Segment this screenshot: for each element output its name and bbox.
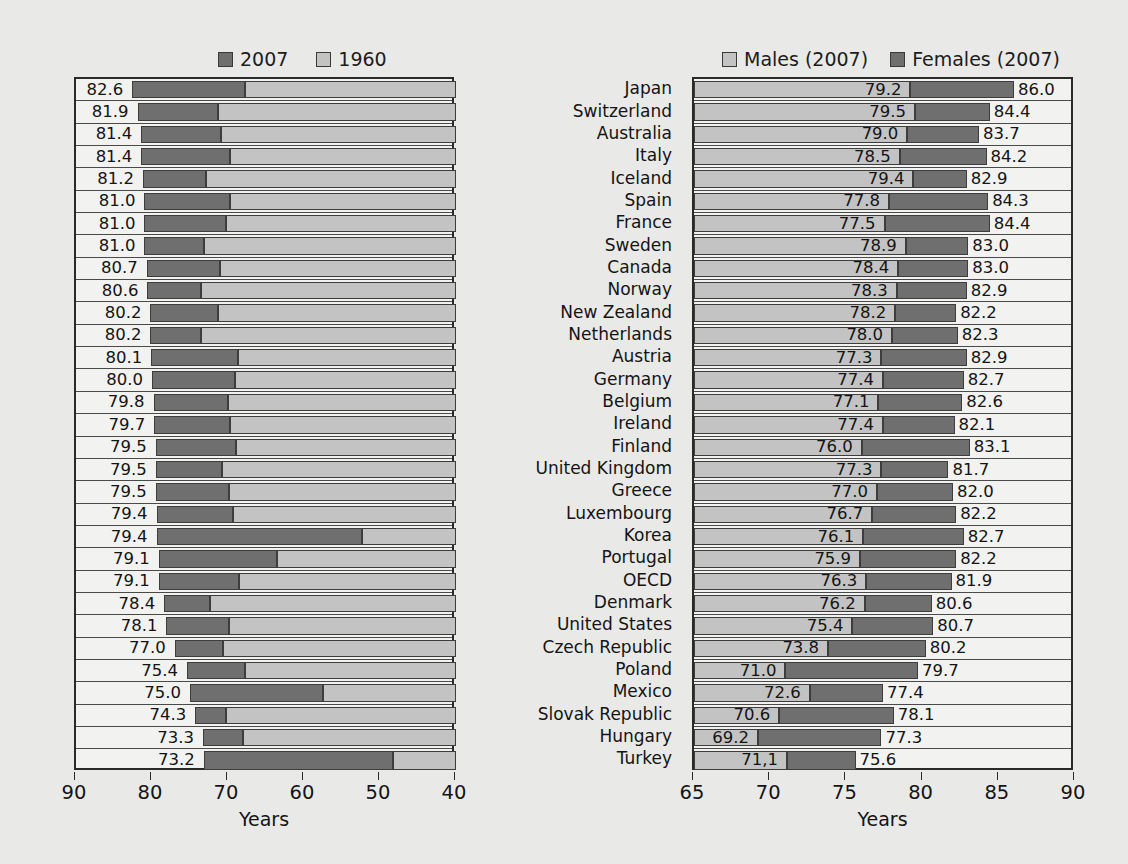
country-label: Poland <box>468 658 680 680</box>
bar-row: 78.1 <box>76 615 452 637</box>
bar-segment-females <box>866 573 951 590</box>
bar-value-label-2007: 81.0 <box>99 238 136 255</box>
bar-value-label-females: 82.2 <box>960 305 997 322</box>
bar-segment-females <box>863 528 964 545</box>
bar-segment-2007 <box>141 126 221 143</box>
axis-tick <box>692 772 693 780</box>
bar-value-label-females: 82.3 <box>962 327 999 344</box>
bar-segment-2007 <box>166 617 228 634</box>
bar-segment-2007 <box>152 371 235 388</box>
bar-value-label-males: 78.5 <box>854 148 891 165</box>
bar-row: 76.280.6 <box>694 593 1071 615</box>
bar-row: 79.4 <box>76 504 452 526</box>
bar-segment-1960 <box>221 126 456 143</box>
country-label: United States <box>468 613 680 635</box>
x-axis-right: Years 657075808590 <box>692 772 1073 818</box>
bar-segment-1960 <box>201 327 456 344</box>
bar-row: 77.482.7 <box>694 369 1071 391</box>
bar-segment-1960 <box>277 550 456 567</box>
bar-value-label-females: 83.7 <box>983 126 1020 143</box>
axis-tick-label: 90 <box>1061 781 1086 804</box>
bar-value-label-females: 82.7 <box>968 528 1005 545</box>
bar-row: 75.4 <box>76 660 452 682</box>
bar-value-label-2007: 81.4 <box>96 126 133 143</box>
bar-segment-2007 <box>143 170 206 187</box>
bar-value-label-males: 71.0 <box>740 662 777 679</box>
bar-segment-2007 <box>154 416 229 433</box>
bar-row: 79.7 <box>76 414 452 436</box>
bar-value-label-females: 84.3 <box>992 193 1029 210</box>
bar-segment-females <box>883 416 955 433</box>
bar-segment-females <box>900 148 987 165</box>
bar-segment-1960 <box>245 662 456 679</box>
bar-row: 69.277.3 <box>694 727 1071 749</box>
legend-label-2007: 2007 <box>240 48 288 70</box>
bar-row: 76.782.2 <box>694 504 1071 526</box>
bar-segment-females <box>897 282 967 299</box>
chart-life-expectancy-by-gender: 79.286.079.584.479.083.778.584.279.482.9… <box>692 77 1073 770</box>
bar-rows-left: 82.681.981.481.481.281.081.081.080.780.6… <box>76 79 452 768</box>
bar-value-label-2007: 80.7 <box>101 260 138 277</box>
bar-value-label-females: 82.9 <box>971 171 1008 188</box>
bar-value-label-females: 83.0 <box>972 238 1009 255</box>
bar-row: 81.9 <box>76 101 452 123</box>
axis-tick <box>150 772 151 780</box>
bar-value-label-females: 82.0 <box>957 484 994 501</box>
bar-segment-1960 <box>220 260 456 277</box>
bar-segment-females <box>881 461 948 478</box>
bar-row: 80.2 <box>76 325 452 347</box>
x-axis-left: Years 908070605040 <box>74 772 454 818</box>
bar-value-label-2007: 77.0 <box>129 640 166 657</box>
axis-tick-label: 80 <box>908 781 933 804</box>
bar-segment-2007 <box>156 461 222 478</box>
bar-row: 77.584.4 <box>694 213 1071 235</box>
bar-value-label-2007: 78.4 <box>118 595 155 612</box>
bar-segment-females <box>785 662 918 679</box>
bar-segment-1960 <box>235 371 456 388</box>
bar-value-label-females: 77.4 <box>887 685 924 702</box>
bar-segment-2007 <box>147 260 220 277</box>
bar-value-label-females: 81.7 <box>953 461 990 478</box>
bar-row: 80.2 <box>76 302 452 324</box>
bar-value-label-females: 80.2 <box>930 640 967 657</box>
country-label: France <box>468 211 680 233</box>
country-label: Greece <box>468 479 680 501</box>
bar-segment-2007 <box>144 215 225 232</box>
bar-segment-females <box>889 193 988 210</box>
bar-segment-females <box>877 483 953 500</box>
bar-row: 70.678.1 <box>694 705 1071 727</box>
bar-segment-1960 <box>204 237 456 254</box>
bar-segment-2007 <box>159 550 277 567</box>
bar-row: 74.3 <box>76 705 452 727</box>
axis-tick-label: 40 <box>442 781 467 804</box>
bar-value-label-females: 80.7 <box>937 618 974 635</box>
bar-value-label-males: 77.8 <box>843 193 880 210</box>
bar-value-label-2007: 79.4 <box>111 528 148 545</box>
country-label: Norway <box>468 278 680 300</box>
bar-row: 77.382.9 <box>694 347 1071 369</box>
bar-value-label-males: 78.9 <box>860 238 897 255</box>
bar-row: 77.884.3 <box>694 191 1071 213</box>
country-label: Denmark <box>468 591 680 613</box>
bar-value-label-males: 78.4 <box>852 260 889 277</box>
bar-segment-females <box>907 126 979 143</box>
bar-value-label-females: 82.1 <box>959 417 996 434</box>
bar-segment-females <box>898 260 968 277</box>
bar-value-label-2007: 75.4 <box>141 662 178 679</box>
legend-label-males: Males (2007) <box>744 48 868 70</box>
bar-row: 81.0 <box>76 213 452 235</box>
bar-value-label-males: 78.3 <box>851 283 888 300</box>
bar-segment-2007 <box>203 729 243 746</box>
country-label: Czech Republic <box>468 636 680 658</box>
axis-title-left: Years <box>74 808 454 830</box>
bar-value-label-2007: 79.4 <box>111 506 148 523</box>
bar-row: 80.7 <box>76 258 452 280</box>
bar-value-label-males: 76.7 <box>827 506 864 523</box>
country-label: Ireland <box>468 412 680 434</box>
bar-segment-females <box>810 684 883 701</box>
bar-segment-1960 <box>230 148 456 165</box>
axis-tick-label: 50 <box>366 781 391 804</box>
bar-segment-1960 <box>228 394 456 411</box>
bar-segment-1960 <box>245 81 456 98</box>
country-label: Australia <box>468 122 680 144</box>
